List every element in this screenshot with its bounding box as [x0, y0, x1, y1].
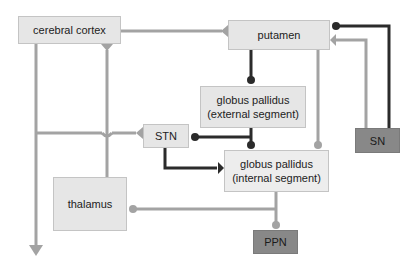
- node-ppn: PPN: [253, 230, 298, 254]
- arrowhead-output-down: [29, 245, 43, 256]
- edge-stn-gpi: [165, 147, 217, 168]
- node-sn: SN: [355, 128, 400, 153]
- dot-gpe-gpi: [247, 141, 255, 149]
- dot-gpi-thalamus: [129, 205, 137, 213]
- dot-sn-putamen: [332, 22, 340, 30]
- edge-sn-putamen-excitatory: [336, 40, 366, 128]
- arrowhead-thalamus-cortex: [101, 44, 113, 51]
- label-putamen: putamen: [258, 28, 301, 42]
- label-gpe-line2: (external segment): [207, 107, 299, 121]
- label-thalamus: thalamus: [68, 197, 113, 211]
- dot-gpe-stn: [191, 133, 199, 141]
- label-sn: SN: [370, 134, 385, 148]
- node-stn: STN: [143, 124, 189, 148]
- label-ppn: PPN: [264, 235, 287, 249]
- node-thalamus: thalamus: [53, 177, 127, 231]
- node-putamen: putamen: [228, 20, 330, 50]
- node-globus-pallidus-internal: globus pallidus (internal segment): [224, 150, 329, 192]
- label-gpi-line2: (internal segment): [232, 171, 321, 185]
- arrowhead-sn-putamen: [330, 34, 336, 46]
- node-globus-pallidus-external: globus pallidus (external segment): [200, 86, 306, 128]
- arrowhead-cortex-putamen: [221, 25, 228, 37]
- dot-putamen-gpi: [314, 141, 322, 149]
- dot-gpi-ppn: [272, 221, 280, 229]
- label-gpi-line1: globus pallidus: [240, 157, 313, 171]
- node-cerebral-cortex: cerebral cortex: [18, 16, 121, 44]
- label-cerebral-cortex: cerebral cortex: [33, 23, 106, 37]
- arrowhead-cortex-stn: [136, 127, 143, 139]
- dot-putamen-gpe: [247, 76, 255, 84]
- label-stn: STN: [155, 129, 177, 143]
- label-gpe-line1: globus pallidus: [217, 93, 290, 107]
